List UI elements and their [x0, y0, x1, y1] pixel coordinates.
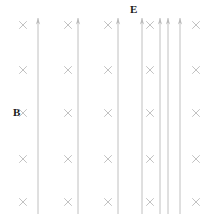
- field-diagram: E B: [0, 0, 210, 220]
- cross-into-page-icon: [20, 156, 27, 163]
- cross-into-page-icon: [65, 67, 72, 74]
- cross-into-page-icon: [147, 156, 154, 163]
- cross-into-page-icon: [147, 199, 154, 206]
- field-diagram-canvas: [0, 0, 210, 220]
- cross-into-page-icon: [193, 22, 200, 29]
- magnetic-field-label: B: [13, 107, 20, 118]
- cross-into-page-icon: [193, 110, 200, 117]
- cross-into-page-icon: [105, 110, 112, 117]
- cross-into-page-icon: [65, 199, 72, 206]
- electric-field-lines: [36, 18, 182, 214]
- cross-into-page-icon: [105, 156, 112, 163]
- cross-into-page-icon: [65, 156, 72, 163]
- cross-into-page-icon: [105, 199, 112, 206]
- cross-into-page-icon: [147, 22, 154, 29]
- cross-into-page-icon: [65, 110, 72, 117]
- cross-into-page-icon: [20, 110, 27, 117]
- cross-into-page-icon: [193, 67, 200, 74]
- cross-into-page-icon: [105, 67, 112, 74]
- magnetic-field-crosses: [20, 22, 200, 206]
- cross-into-page-icon: [65, 22, 72, 29]
- cross-into-page-icon: [193, 199, 200, 206]
- cross-into-page-icon: [147, 110, 154, 117]
- cross-into-page-icon: [20, 67, 27, 74]
- cross-into-page-icon: [20, 199, 27, 206]
- cross-into-page-icon: [20, 22, 27, 29]
- cross-into-page-icon: [105, 22, 112, 29]
- cross-into-page-icon: [147, 67, 154, 74]
- electric-field-label: E: [130, 4, 137, 15]
- cross-into-page-icon: [193, 156, 200, 163]
